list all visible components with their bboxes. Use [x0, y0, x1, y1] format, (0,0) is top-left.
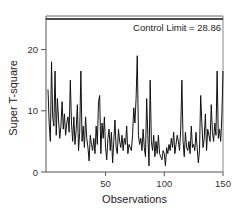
- series-line: [48, 56, 223, 166]
- y-tick-label: 0: [33, 167, 38, 178]
- x-axis-label: Observations: [102, 193, 167, 205]
- control-limit-label: Control Limit = 28.86: [133, 22, 221, 33]
- x-tick-label: 50: [100, 178, 111, 189]
- x-tick-label: 150: [215, 178, 231, 189]
- plot-frame: [46, 16, 223, 172]
- y-tick-label: 10: [27, 105, 38, 116]
- x-axis: 50100150: [100, 172, 231, 189]
- y-axis-label: Super T-square: [7, 60, 19, 136]
- y-axis: 01020: [27, 44, 46, 177]
- series-layer: [48, 56, 223, 166]
- y-tick-label: 20: [27, 44, 38, 55]
- control-chart: 01020 50100150 Observations Super T-squa…: [0, 0, 242, 215]
- x-tick-label: 100: [156, 178, 172, 189]
